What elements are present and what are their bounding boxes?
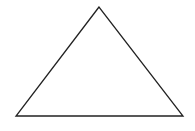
diagram-canvas (0, 0, 195, 131)
triangle-shape (16, 7, 183, 116)
